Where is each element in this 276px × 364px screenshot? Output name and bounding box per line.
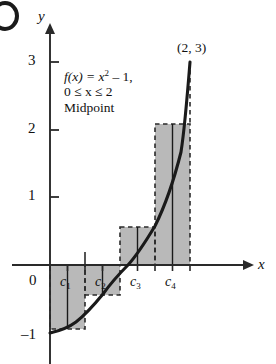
midpoint-riemann-sum-figure: y x 3 2 1 0 –1 c1 c2 c3 c4 (2, 3) f(x) =… — [0, 0, 276, 364]
x-label-c3: c3 — [130, 274, 141, 291]
x-label-c1-sub: 1 — [66, 281, 71, 291]
x-axis-arrowhead — [243, 260, 254, 270]
point-label-2-3: (2, 3) — [177, 40, 206, 56]
x-axis-label: x — [258, 256, 265, 274]
x-label-c2: c2 — [95, 274, 106, 291]
annotation-line-3: Midpoint — [64, 100, 133, 116]
x-label-c1: c1 — [60, 274, 71, 291]
y-tick-label-2: 2 — [28, 120, 36, 138]
annotation-expr: (x) = x — [68, 69, 105, 84]
y-axis-label: y — [38, 8, 45, 26]
origin-label: 0 — [29, 272, 37, 290]
x-label-c4-sub: 4 — [171, 281, 176, 291]
y-axis-ticks — [50, 62, 59, 197]
y-tick-label-3: 3 — [28, 52, 36, 70]
function-annotation: f(x) = x2 – 1, 0 ≤ x ≤ 2 Midpoint — [64, 68, 133, 116]
annotation-line-1: f(x) = x2 – 1, — [64, 68, 133, 84]
y-tick-label-negative-1: –1 — [21, 326, 36, 344]
figure-canvas — [0, 0, 276, 364]
x-label-c3-sub: 3 — [136, 281, 141, 291]
annotation-line-2: 0 ≤ x ≤ 2 — [64, 84, 133, 100]
y-tick-label-1: 1 — [28, 187, 36, 205]
x-label-c2-sub: 2 — [101, 281, 106, 291]
x-label-c4: c4 — [165, 274, 176, 291]
y-axis-arrowhead — [45, 23, 55, 34]
annotation-tail: – 1, — [109, 69, 133, 84]
